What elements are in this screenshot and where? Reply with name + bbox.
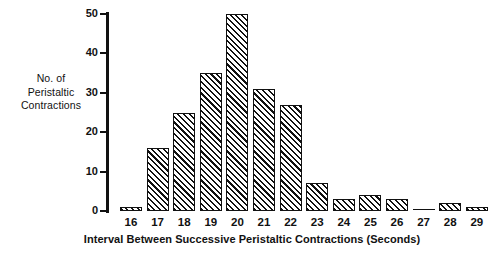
x-axis-tick-label: 24 [333,216,355,228]
x-axis-tick-label: 26 [386,216,408,228]
bar[interactable] [439,203,461,211]
y-axis-tick-label: 0 [64,205,98,216]
bar-slot [120,14,142,211]
x-axis-tick-label: 22 [280,216,302,228]
bar-slot [413,14,435,211]
x-axis-tick-label: 17 [147,216,169,228]
histogram-figure: No. of Peristaltic Contractions 01020304… [0,0,504,256]
y-axis-tick-label: 20 [64,126,98,137]
plot-area: 01020304050 1617181920212223242526272829 [106,14,498,211]
x-axis-tick-label: 28 [439,216,461,228]
x-axis-tick-label: 29 [466,216,488,228]
bar-slot [173,14,195,211]
bar[interactable] [466,207,488,211]
x-axis-tick-label: 18 [173,216,195,228]
bar-slot [253,14,275,211]
bar[interactable] [147,148,169,211]
x-axis-title: Interval Between Successive Peristaltic … [0,233,504,245]
bar-slot [200,14,222,211]
bar-slot [280,14,302,211]
bar[interactable] [200,73,222,211]
bar[interactable] [333,199,355,211]
x-axis-tick-label: 16 [120,216,142,228]
bar-slot [359,14,381,211]
x-axis-tick-label: 21 [253,216,275,228]
y-axis-tick-label: 40 [64,47,98,58]
bar[interactable] [280,105,302,211]
y-axis-tick-label: 10 [64,166,98,177]
bar[interactable] [413,209,435,211]
bar[interactable] [386,199,408,211]
bar[interactable] [173,113,195,212]
x-axis-tick-label: 25 [359,216,381,228]
bar[interactable] [359,195,381,211]
bar-slot [226,14,248,211]
x-axis-tick-label: 27 [413,216,435,228]
bar-slot [439,14,461,211]
bar[interactable] [120,207,142,211]
bar[interactable] [226,14,248,211]
x-axis-tick-label: 19 [200,216,222,228]
bar-slot [333,14,355,211]
x-axis-tick-label: 20 [226,216,248,228]
bar[interactable] [306,183,328,211]
x-axis-tick-label: 23 [306,216,328,228]
bar-slot [147,14,169,211]
bar-slot [386,14,408,211]
y-axis-tick-label: 30 [64,87,98,98]
bar-slot [466,14,488,211]
y-axis-tick-labels: 01020304050 [62,14,98,211]
y-axis-tick-label: 50 [64,8,98,19]
bar-slot [306,14,328,211]
bar-series: 1617181920212223242526272829 [106,14,498,211]
bar[interactable] [253,89,275,211]
